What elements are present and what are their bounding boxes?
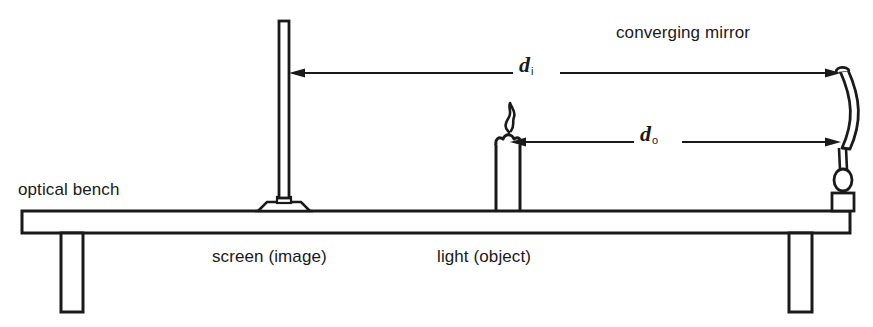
bench-leg-right bbox=[789, 233, 812, 312]
converging-mirror-surface bbox=[840, 70, 858, 149]
optical-bench-label: optical bench bbox=[18, 180, 119, 200]
object-distance-subscript: o bbox=[652, 134, 658, 146]
candle-flame-icon bbox=[506, 103, 515, 131]
bench-leg-left bbox=[61, 233, 83, 312]
object-distance-symbol: d bbox=[640, 121, 651, 146]
optical-bench-diagram: converging mirror optical bench screen (… bbox=[0, 0, 873, 327]
mirror-base-block bbox=[832, 193, 854, 211]
object-distance-label: do bbox=[640, 121, 657, 147]
mirror-stem bbox=[839, 148, 847, 170]
mirror-ball-joint bbox=[834, 169, 852, 191]
converging-mirror-label: converging mirror bbox=[616, 23, 750, 43]
light-object-label: light (object) bbox=[437, 247, 531, 267]
object-distance-arrow bbox=[510, 138, 841, 147]
object-distance-arrowhead-right bbox=[825, 138, 841, 147]
screen-panel bbox=[279, 21, 289, 198]
diagram-canvas bbox=[0, 0, 873, 327]
image-distance-label: di bbox=[519, 52, 532, 78]
image-distance-arrow bbox=[289, 69, 841, 78]
image-distance-symbol: d bbox=[519, 52, 530, 77]
optical-bench-top bbox=[22, 211, 850, 233]
candle-body bbox=[496, 144, 520, 211]
screen-image-label: screen (image) bbox=[212, 247, 327, 267]
image-distance-arrowhead-left bbox=[289, 69, 305, 78]
